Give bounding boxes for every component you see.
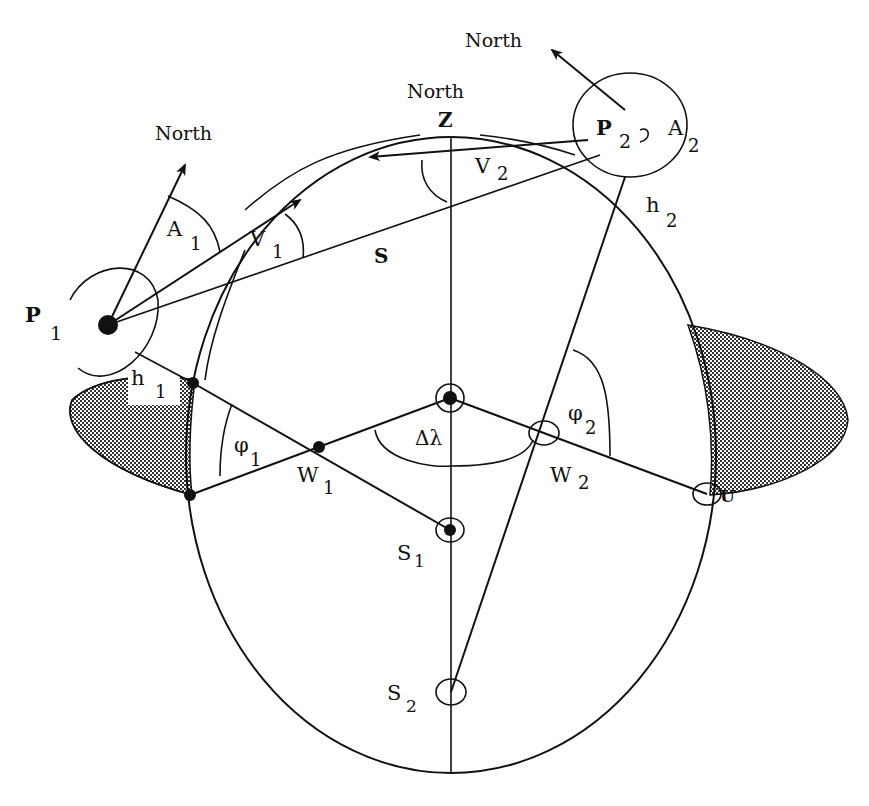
- right-horizon-shadow: [688, 325, 848, 495]
- diagram-canvas: North North North Z P 1 P 2 A 1 A 2 V 1 …: [0, 0, 869, 806]
- phi2-label: φ: [568, 401, 583, 425]
- svg-text:2: 2: [666, 210, 677, 231]
- h2-label: h: [646, 193, 660, 217]
- a2-label: A: [667, 116, 684, 140]
- north-label-p1: North: [155, 122, 212, 144]
- u-label: U: [720, 486, 735, 506]
- w1-label: W: [297, 463, 319, 487]
- svg-text:2: 2: [497, 163, 508, 184]
- s1-label: S: [397, 541, 411, 565]
- svg-text:2: 2: [619, 130, 631, 152]
- svg-text:2: 2: [688, 135, 699, 156]
- v1-label: V: [249, 227, 266, 251]
- svg-text:2: 2: [406, 696, 417, 716]
- svg-text:1: 1: [155, 381, 166, 402]
- svg-text:1: 1: [190, 233, 201, 254]
- s2-label: S: [387, 681, 401, 705]
- svg-text:2: 2: [578, 472, 589, 493]
- a1-label: A: [166, 217, 183, 241]
- w2-label: W: [550, 463, 572, 487]
- p1-point: [98, 315, 118, 335]
- svg-text:1: 1: [323, 477, 334, 498]
- north-label-p2: North: [465, 29, 522, 51]
- svg-text:2: 2: [585, 417, 596, 438]
- h1-label: h: [131, 366, 145, 390]
- svg-text:1: 1: [414, 551, 425, 571]
- p1-label: P: [25, 302, 41, 327]
- svg-text:1: 1: [250, 449, 261, 470]
- v2-label: V: [474, 154, 491, 178]
- svg-text:1: 1: [272, 241, 283, 262]
- p2-label: P: [596, 115, 612, 140]
- w1-point: [313, 441, 325, 453]
- delta-lambda-label: Δλ: [415, 426, 442, 450]
- zenith-label: Z: [438, 108, 453, 132]
- svg-text:1: 1: [50, 322, 62, 344]
- north-arrow-p2: [552, 50, 625, 110]
- phi1-label: φ: [234, 433, 249, 457]
- s-label: S: [374, 244, 388, 268]
- north-label-z: North: [407, 80, 464, 102]
